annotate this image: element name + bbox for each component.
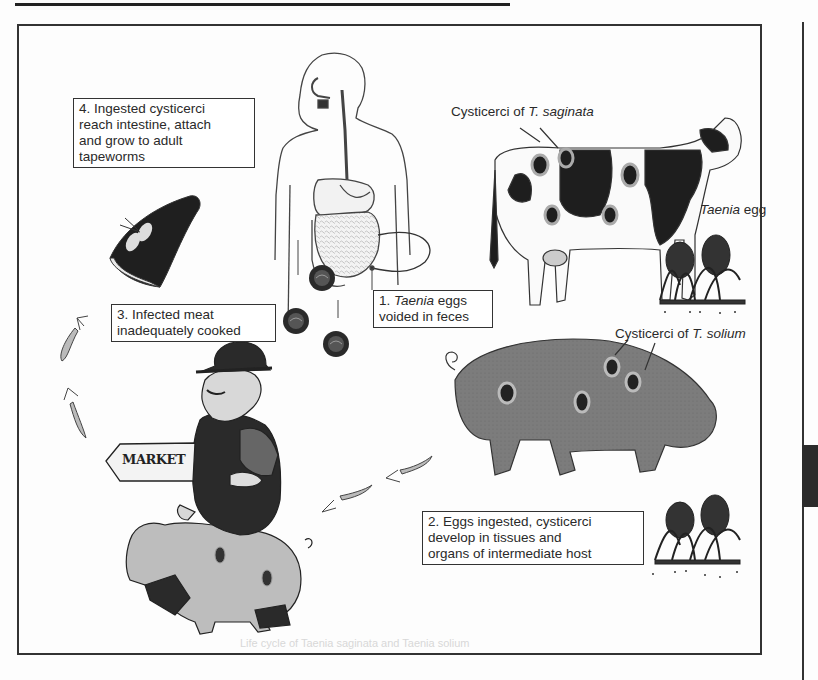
farmer-riding-pig-icon bbox=[126, 342, 312, 634]
human-digestive-icon bbox=[275, 53, 430, 330]
taenia-egg-label: Taenia egg bbox=[700, 202, 766, 217]
arrow-up-icons bbox=[61, 316, 88, 438]
step-2-label: 2. Eggs ingested, cysticerci develop in … bbox=[422, 511, 644, 565]
step-4-label: 4. Ingested cysticerci reach intestine, … bbox=[73, 98, 255, 168]
arrow-pig-to-farmer-icons bbox=[322, 456, 432, 512]
pig-cysticerci-label: Cysticerci of T. solium bbox=[615, 326, 746, 341]
step-3-label: 3. Infected meat inadequately cooked bbox=[111, 304, 276, 342]
step-1-label: 1. Taenia eggs voided in feces bbox=[373, 290, 493, 328]
market-sign-label: MARKET bbox=[122, 452, 185, 467]
faded-caption: Life cycle of Taenia saginata and Taenia… bbox=[240, 637, 470, 649]
cow-cysticerci-label: Cysticerci of T. saginata bbox=[451, 104, 594, 119]
grass-with-eggs-icon bbox=[660, 235, 745, 304]
taenia-egg-icons bbox=[283, 265, 349, 357]
dots bbox=[664, 311, 736, 314]
pig-icon bbox=[446, 339, 716, 475]
grass-with-eggs-icon-2 bbox=[655, 495, 740, 564]
infected-meat-icon bbox=[110, 196, 200, 287]
